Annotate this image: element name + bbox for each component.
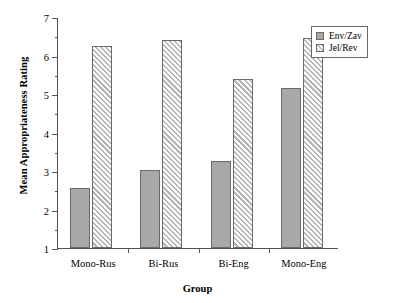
y-axis-tick-label: 2 <box>44 205 49 216</box>
legend-item: Env/Zav <box>316 30 362 42</box>
x-axis-tick-label: Bi-Rus <box>148 258 178 269</box>
bar-jel-rev-mono-eng <box>303 38 323 248</box>
y-axis-minor-tick <box>55 191 59 192</box>
y-axis-tick-label: 1 <box>44 244 49 255</box>
x-axis-tick <box>199 248 200 253</box>
bar-env-zav-bi-rus <box>140 170 160 248</box>
y-axis-minor-tick <box>55 37 59 38</box>
bar-env-zav-mono-eng <box>281 88 301 248</box>
x-axis-tick <box>269 248 270 253</box>
x-axis-tick-label: Mono-Rus <box>71 258 116 269</box>
y-axis-tick-label: 5 <box>44 90 49 101</box>
y-axis-tick <box>52 57 58 58</box>
bar-jel-rev-mono-rus <box>92 46 112 248</box>
legend-item: Jel/Rev <box>316 42 362 54</box>
legend-item-label: Jel/Rev <box>329 43 358 53</box>
y-axis-tick <box>52 249 58 250</box>
x-axis-title: Group <box>57 283 338 294</box>
y-axis-tick <box>52 134 58 135</box>
y-axis-tick-label: 3 <box>44 167 49 178</box>
y-axis-tick-label: 4 <box>44 128 49 139</box>
hatched-gray-swatch <box>316 44 324 52</box>
y-axis-title: Mean Appropriateness Rating <box>18 11 29 241</box>
legend-item-label: Env/Zav <box>329 31 362 41</box>
y-axis-minor-tick <box>55 114 59 115</box>
x-axis-tick <box>128 248 129 253</box>
y-axis-minor-tick <box>55 76 59 77</box>
y-axis-tick-label: 6 <box>44 51 49 62</box>
x-axis-tick-label: Bi-Eng <box>218 258 248 269</box>
bar-env-zav-bi-eng <box>211 161 231 248</box>
y-axis-tick <box>52 95 58 96</box>
y-axis-tick-label: 7 <box>44 13 49 24</box>
bar-env-zav-mono-rus <box>70 188 90 248</box>
y-axis-minor-tick <box>55 153 59 154</box>
bar-jel-rev-bi-rus <box>162 40 182 248</box>
bar-jel-rev-bi-eng <box>233 79 253 248</box>
bar-chart: Mean Appropriateness Rating 1234567Mono-… <box>0 0 395 303</box>
y-axis-tick <box>52 18 58 19</box>
y-axis-minor-tick <box>55 230 59 231</box>
y-axis-tick <box>52 211 58 212</box>
solid-gray-swatch <box>316 32 324 40</box>
y-axis-tick <box>52 172 58 173</box>
x-axis-tick-label: Mono-Eng <box>281 258 327 269</box>
plot-area: 1234567Mono-RusBi-RusBi-EngMono-Eng <box>57 18 338 249</box>
legend: Env/ZavJel/Rev <box>311 26 368 58</box>
